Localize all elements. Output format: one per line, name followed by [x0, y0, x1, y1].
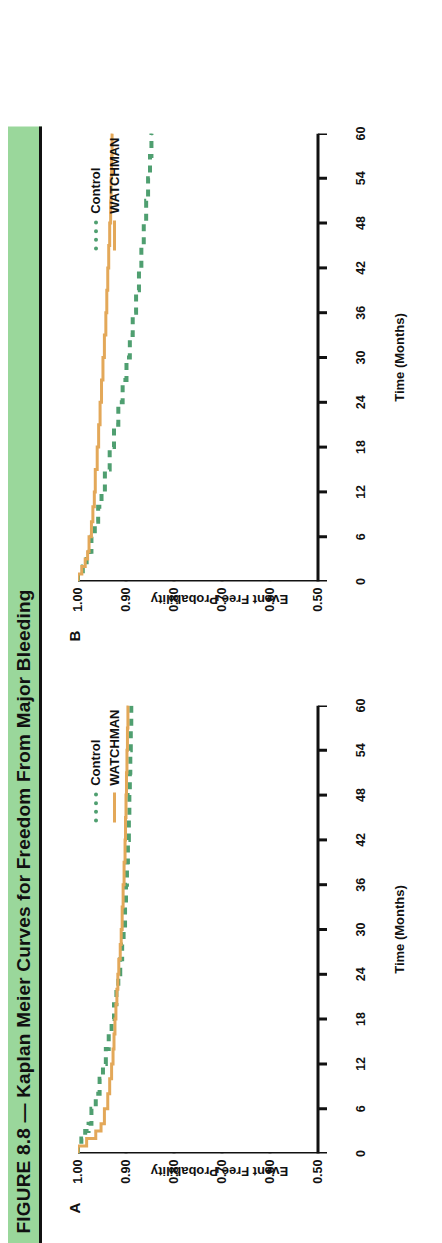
x-tick-label: 30	[354, 350, 368, 364]
panel-b-legend-watchman-label: WATCHMAN	[107, 137, 122, 213]
x-tick-label: 60	[354, 698, 368, 712]
x-tick-label: 54	[354, 743, 368, 757]
panel-b-x-ticks: 06121824303642485460	[354, 133, 372, 581]
x-tick-label: 12	[354, 484, 368, 498]
y-tick-label: 1.00	[71, 1159, 85, 1183]
panel-b-y-ticks: 1.000.900.800.700.600.50	[78, 587, 318, 635]
x-tick-label: 60	[354, 126, 368, 140]
panel-a-y-ticks: 1.000.900.800.700.600.50	[78, 1159, 318, 1207]
panel-b-legend-watchman: WATCHMAN	[105, 137, 124, 250]
panel-a-x-ticks: 06121824303642485460	[354, 705, 372, 1153]
figure-title-banner: FIGURE 8.8 — Kaplan Meier Curves for Fre…	[8, 126, 42, 1243]
x-tick-label: 0	[354, 1150, 368, 1157]
x-tick-label: 36	[354, 877, 368, 891]
x-tick-label: 18	[354, 440, 368, 454]
x-tick-label: 6	[354, 533, 368, 540]
y-tick-label: 0.50	[311, 587, 325, 611]
y-tick-label: 1.00	[71, 587, 85, 611]
figure-title: FIGURE 8.8 — Kaplan Meier Curves for Fre…	[13, 589, 35, 1243]
x-tick-label: 6	[354, 1105, 368, 1112]
dashed-line-icon	[94, 220, 98, 250]
x-tick-label: 12	[354, 1056, 368, 1070]
panel-b-legend-control-label: Control	[88, 167, 103, 213]
panel-a-x-axis-title: Time (Months)	[392, 705, 407, 1153]
x-tick-label: 54	[354, 171, 368, 185]
x-tick-label: 42	[354, 832, 368, 846]
panel-a-legend-control: Control	[86, 709, 105, 822]
panel-b-legend: Control WATCHMAN	[86, 137, 124, 250]
y-tick-label: 0.60	[263, 587, 277, 611]
dashed-line-icon	[94, 792, 98, 822]
x-tick-label: 24	[354, 395, 368, 409]
y-tick-label: 0.90	[119, 587, 133, 611]
panel-a-legend-control-label: Control	[88, 739, 103, 785]
y-tick-label: 0.50	[311, 1159, 325, 1183]
x-tick-label: 24	[354, 967, 368, 981]
solid-line-icon	[113, 220, 116, 250]
panel-b-x-axis-title: Time (Months)	[392, 133, 407, 581]
y-tick-label: 0.80	[167, 587, 181, 611]
x-tick-label: 30	[354, 922, 368, 936]
y-tick-label: 0.80	[167, 1159, 181, 1183]
y-tick-label: 0.70	[215, 1159, 229, 1183]
y-tick-label: 0.70	[215, 587, 229, 611]
panel-a-legend-watchman-label: WATCHMAN	[107, 709, 122, 785]
panel-a: A Event Free Probability 1.000.900.800.7…	[62, 685, 422, 1215]
x-tick-label: 18	[354, 1012, 368, 1026]
x-tick-label: 0	[354, 578, 368, 585]
panel-a-legend-watchman: WATCHMAN	[105, 709, 124, 822]
x-tick-label: 48	[354, 216, 368, 230]
y-tick-label: 0.90	[119, 1159, 133, 1183]
panel-b-legend-control: Control	[86, 137, 105, 250]
solid-line-icon	[113, 792, 116, 822]
figure-canvas: FIGURE 8.8 — Kaplan Meier Curves for Fre…	[0, 0, 442, 1243]
x-tick-label: 48	[354, 788, 368, 802]
panel-a-legend: Control WATCHMAN	[86, 709, 124, 822]
panel-b: B Event Free Probability 1.000.900.800.7…	[62, 113, 422, 643]
x-tick-label: 42	[354, 260, 368, 274]
x-tick-label: 36	[354, 305, 368, 319]
y-tick-label: 0.60	[263, 1159, 277, 1183]
